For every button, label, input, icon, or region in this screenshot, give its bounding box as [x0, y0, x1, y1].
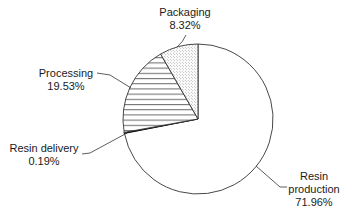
label-resin-production-name-1: Resin [284, 170, 344, 183]
label-processing-name: Processing [34, 67, 98, 80]
label-processing-pct: 19.53% [34, 80, 98, 93]
label-resin-delivery-pct: 0.19% [6, 155, 82, 168]
label-packaging: Packaging 8.32% [155, 6, 215, 32]
label-resin-production: Resin production 71.96% [284, 170, 344, 209]
leader-line-resin-production [256, 166, 287, 187]
label-processing: Processing 19.53% [34, 67, 98, 93]
label-resin-delivery-name: Resin delivery [6, 142, 82, 155]
label-packaging-name: Packaging [155, 6, 215, 19]
label-resin-production-pct: 71.96% [284, 196, 344, 209]
leader-line-processing [97, 73, 131, 88]
label-resin-production-name-2: production [284, 183, 344, 196]
leader-line-resin-delivery [82, 133, 127, 154]
label-resin-delivery: Resin delivery 0.19% [6, 142, 82, 168]
label-packaging-pct: 8.32% [155, 19, 215, 32]
